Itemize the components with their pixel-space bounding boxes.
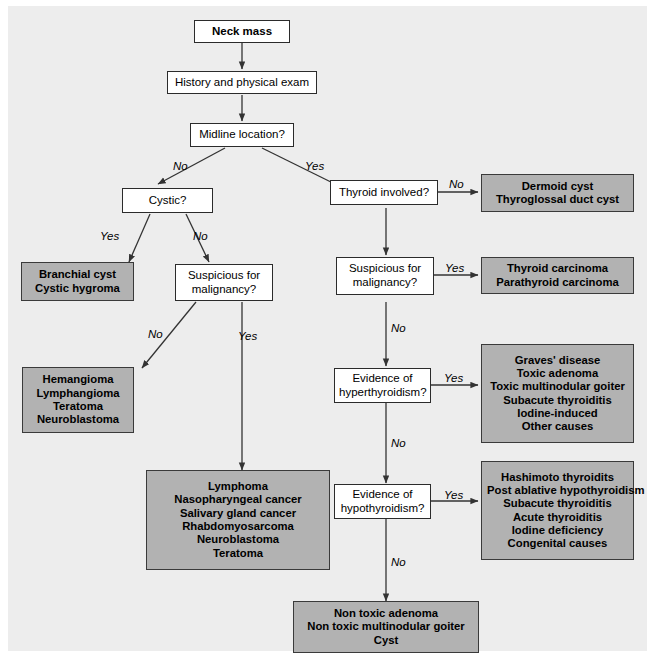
line-3: Cyst (299, 634, 473, 647)
edge-label-midline-no: No (173, 160, 188, 172)
outcome-thyroid-carcinoma-lines: Thyroid carcinoma Parathyroid carcinoma (487, 262, 628, 289)
edge-label-cystic-no: No (193, 230, 208, 242)
line-2: Non toxic multinodular goiter (299, 620, 473, 633)
outcome-hemangioma-group: Hemangioma Lymphangioma Teratoma Neurobl… (22, 367, 134, 433)
node-thyroid-involved: Thyroid involved? (330, 180, 438, 205)
line-1: Thyroid carcinoma (487, 262, 628, 275)
line-2: malignancy? (180, 283, 268, 297)
outcome-dermoid-cyst-lines: Dermoid cyst Thyroglossal duct cyst (487, 180, 628, 207)
node-evidence-hypothyroidism: Evidence of hypothyroidism? (334, 484, 431, 519)
line-3: Subacute thyroiditis (487, 497, 628, 510)
line-6: Teratoma (152, 547, 324, 560)
node-history-exam-label: History and physical exam (175, 76, 309, 90)
line-3: Toxic multinodular goiter (487, 380, 628, 393)
outcome-dermoid-cyst: Dermoid cyst Thyroglossal duct cyst (481, 174, 634, 212)
line-2: Thyroglossal duct cyst (487, 193, 628, 206)
line-1: Hemangioma (28, 373, 128, 386)
line-2: hyperthyroidism? (339, 386, 426, 400)
node-suspicious-malignancy-right: Suspicious for malignancy? (336, 257, 434, 295)
line-5: Iodine-induced (487, 407, 628, 420)
outcome-hyperthyroid-causes-lines: Graves' disease Toxic adenoma Toxic mult… (487, 354, 628, 434)
edge-label-cystic-yes: Yes (100, 230, 119, 242)
node-midline-location-label: Midline location? (199, 128, 285, 142)
node-midline-location: Midline location? (190, 123, 294, 147)
edge-label-susp-right-yes: Yes (445, 262, 464, 274)
edge-label-hyper-no: No (391, 437, 406, 449)
line-1: Suspicious for (180, 269, 268, 283)
node-evidence-hypothyroidism-lines: Evidence of hypothyroidism? (339, 488, 426, 515)
node-history-exam: History and physical exam (167, 71, 317, 94)
node-cystic-label: Cystic? (149, 194, 187, 208)
line-1: Evidence of (339, 488, 426, 502)
line-2: malignancy? (341, 276, 429, 290)
node-evidence-hyperthyroidism: Evidence of hyperthyroidism? (334, 368, 431, 403)
line-1: Branchial cyst (27, 268, 128, 281)
node-suspicious-malignancy-left: Suspicious for malignancy? (175, 264, 273, 301)
line-3: Salivary gland cancer (152, 507, 324, 520)
line-2: Post ablative hypothyroidism (487, 484, 628, 497)
edge-label-susp-left-yes: Yes (238, 330, 257, 342)
outcome-non-toxic-lines: Non toxic adenoma Non toxic multinodular… (299, 607, 473, 647)
edge-label-hypo-no: No (391, 556, 406, 568)
node-cystic: Cystic? (122, 188, 213, 213)
edge-label-thyroid-no: No (449, 178, 464, 190)
outcome-hyperthyroid-causes: Graves' disease Toxic adenoma Toxic mult… (481, 344, 634, 443)
outcome-branchial-cyst-lines: Branchial cyst Cystic hygroma (27, 268, 128, 295)
outcome-lymphoma-group: Lymphoma Nasopharyngeal cancer Salivary … (146, 470, 330, 570)
line-2: Nasopharyngeal cancer (152, 493, 324, 506)
line-1: Graves' disease (487, 354, 628, 367)
line-1: Suspicious for (341, 262, 429, 276)
outcome-hemangioma-group-lines: Hemangioma Lymphangioma Teratoma Neurobl… (28, 373, 128, 426)
edge-label-hypo-yes: Yes (444, 489, 463, 501)
line-1: Non toxic adenoma (299, 607, 473, 620)
line-4: Neuroblastoma (28, 413, 128, 426)
line-2: Toxic adenoma (487, 367, 628, 380)
edge-label-susp-left-no: No (148, 328, 163, 340)
line-4: Rhabdomyosarcoma (152, 520, 324, 533)
line-4: Acute thyroiditis (487, 511, 628, 524)
outcome-non-toxic: Non toxic adenoma Non toxic multinodular… (293, 601, 479, 653)
outcome-thyroid-carcinoma: Thyroid carcinoma Parathyroid carcinoma (481, 257, 634, 294)
line-2: hypothyroidism? (339, 502, 426, 516)
line-4: Subacute thyroiditis (487, 394, 628, 407)
line-6: Congenital causes (487, 537, 628, 550)
line-2: Parathyroid carcinoma (487, 276, 628, 289)
node-suspicious-malignancy-left-lines: Suspicious for malignancy? (180, 269, 268, 296)
line-1: Dermoid cyst (487, 180, 628, 193)
node-thyroid-involved-label: Thyroid involved? (339, 186, 429, 200)
outcome-hypothyroid-causes: Hashimoto thyroidits Post ablative hypot… (481, 461, 634, 560)
edge-label-hyper-yes: Yes (444, 372, 463, 384)
node-suspicious-malignancy-right-lines: Suspicious for malignancy? (341, 262, 429, 289)
line-3: Teratoma (28, 400, 128, 413)
node-neck-mass-label: Neck mass (212, 25, 272, 39)
line-2: Cystic hygroma (27, 282, 128, 295)
line-1: Evidence of (339, 372, 426, 386)
flowchart-canvas: Neck mass History and physical exam Midl… (0, 0, 655, 668)
outcome-hypothyroid-causes-lines: Hashimoto thyroidits Post ablative hypot… (487, 471, 628, 551)
edge-label-midline-yes: Yes (305, 160, 324, 172)
node-neck-mass: Neck mass (194, 20, 290, 43)
line-2: Lymphangioma (28, 387, 128, 400)
outcome-lymphoma-group-lines: Lymphoma Nasopharyngeal cancer Salivary … (152, 480, 324, 560)
edge-label-susp-right-no: No (391, 322, 406, 334)
line-1: Hashimoto thyroidits (487, 471, 628, 484)
outcome-branchial-cyst: Branchial cyst Cystic hygroma (21, 262, 134, 301)
line-1: Lymphoma (152, 480, 324, 493)
node-evidence-hyperthyroidism-lines: Evidence of hyperthyroidism? (339, 372, 426, 399)
line-5: Iodine deficiency (487, 524, 628, 537)
line-6: Other causes (487, 420, 628, 433)
line-5: Neuroblastoma (152, 533, 324, 546)
